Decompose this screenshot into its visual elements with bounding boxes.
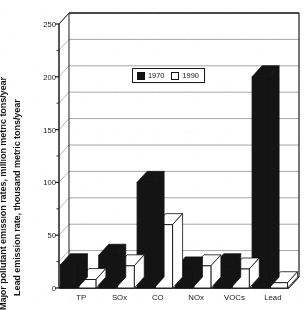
bar-1970-SOx (99, 244, 126, 288)
chart-legend: 1970 1990 (132, 68, 205, 83)
legend-item-1970: 1970 (137, 71, 164, 80)
plot-area (57, 8, 301, 292)
y-axis-tick-label: 200 (32, 72, 56, 81)
legend-label-1990: 1990 (182, 71, 198, 80)
bars-layer (57, 8, 301, 292)
legend-item-1990: 1990 (171, 71, 198, 80)
y-axis-tick-labels: 050100150200250 (30, 0, 56, 306)
y-axis-tick-label: 50 (32, 231, 56, 240)
y-axis-tick-label: 100 (32, 178, 56, 187)
legend-label-1970: 1970 (148, 71, 164, 80)
x-axis-tick-label-Lead: Lead (264, 293, 281, 302)
y-axis-title-line-1: Major pollutant emission rates, million … (0, 10, 11, 310)
x-axis-tick-label-NOx: NOx (188, 293, 204, 302)
y-axis-tick-label: 250 (32, 20, 56, 29)
x-axis-tick-labels: TPSOxCONOxVOCsLead (57, 293, 301, 306)
x-axis-tick-label-SOx: SOx (112, 293, 127, 302)
x-axis-tick-label-TP: TP (76, 293, 86, 302)
bar-1970-Lead (252, 66, 279, 288)
legend-swatch-1970 (137, 72, 145, 80)
y-axis-tick-label: 150 (32, 125, 56, 134)
legend-swatch-1990 (171, 72, 179, 80)
x-axis-tick-label-CO: CO (152, 293, 164, 302)
y-axis-title-line-2: Lead emission rate, thousand metric tons… (13, 0, 25, 296)
y-axis-tick-label: 0 (32, 284, 56, 293)
x-axis-tick-label-VOCs: VOCs (224, 293, 245, 302)
y-axis-title: Major pollutant emission rates, million … (0, 0, 34, 306)
